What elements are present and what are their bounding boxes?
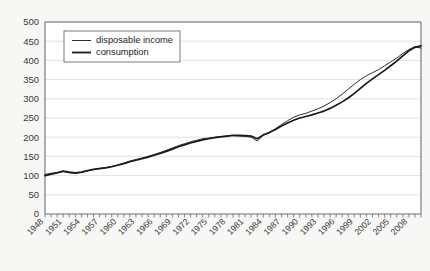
x-tick-label: 1975	[189, 216, 210, 237]
y-tick-label: 400	[23, 55, 39, 66]
x-tick-label: 1990	[280, 216, 301, 237]
y-tick-label: 450	[23, 36, 39, 47]
legend-label-disposable: disposable income	[96, 35, 173, 45]
x-tick-label: 1981	[225, 216, 246, 237]
x-tick-label: 1984	[243, 216, 264, 237]
x-tick-label: 1960	[98, 216, 119, 237]
x-tick-label: 1963	[116, 216, 137, 237]
y-axis-labels: 050100150200250300350400450500	[23, 16, 39, 219]
x-tick-label: 1954	[61, 216, 82, 237]
chart-canvas: 0501001502002503003504004505001948195119…	[0, 0, 430, 271]
y-tick-label: 350	[23, 74, 39, 85]
y-tick-label: 200	[23, 132, 39, 143]
x-tick-label: 2002	[352, 216, 373, 237]
y-tick-label: 150	[23, 151, 39, 162]
x-tick-label: 1993	[298, 216, 319, 237]
y-tick-label: 500	[23, 16, 39, 27]
y-tick-label: 50	[28, 189, 39, 200]
legend: disposable incomeconsumption	[64, 31, 180, 62]
x-tick-label: 2008	[389, 216, 410, 237]
x-tick-label: 2005	[370, 216, 391, 237]
x-tick-label: 1972	[170, 216, 191, 237]
x-tick-label: 1966	[134, 216, 155, 237]
x-tick-label: 1987	[261, 216, 282, 237]
line-chart: 0501001502002503003504004505001948195119…	[0, 0, 430, 271]
y-tick-label: 300	[23, 93, 39, 104]
x-tick-label: 1969	[152, 216, 173, 237]
x-tick-label: 1999	[334, 216, 355, 237]
x-axis-labels: 1948195119541957196019631966196919721975…	[25, 216, 410, 237]
legend-label-consumption: consumption	[96, 47, 149, 57]
x-tick-label: 1957	[79, 216, 100, 237]
x-tick-label: 1948	[25, 216, 46, 237]
x-tick-label: 1978	[207, 216, 228, 237]
x-tick-label: 1996	[316, 216, 337, 237]
y-tick-label: 100	[23, 170, 39, 181]
y-tick-label: 250	[23, 112, 39, 123]
x-tick-label: 1951	[43, 216, 64, 237]
